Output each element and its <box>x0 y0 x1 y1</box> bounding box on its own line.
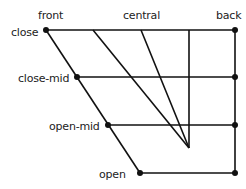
dot-close-front <box>43 27 49 33</box>
dot-open-mid-front <box>105 122 111 128</box>
label-close-mid: close-mid <box>18 73 69 84</box>
label-back: back <box>216 10 241 21</box>
label-open-mid: open-mid <box>49 121 100 132</box>
dot-close-mid-front <box>74 74 80 80</box>
label-close: close <box>11 27 38 38</box>
dot-close-mid-back <box>232 74 238 80</box>
label-front: front <box>38 10 63 21</box>
dot-open-front <box>137 170 143 176</box>
dot-open-mid-back <box>232 122 238 128</box>
front-edge <box>46 30 140 173</box>
central-diagonal-2 <box>141 30 189 148</box>
label-open: open <box>99 169 126 180</box>
label-central: central <box>123 10 160 21</box>
dot-close-back <box>232 27 238 33</box>
dot-open-back <box>232 170 238 176</box>
central-diagonal-1 <box>93 30 189 148</box>
